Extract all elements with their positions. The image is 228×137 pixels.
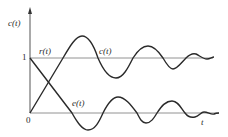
e-curve bbox=[30, 58, 219, 130]
response-chart bbox=[0, 0, 228, 137]
y-axis-label: c(t) bbox=[8, 19, 21, 28]
x-axis-label: t bbox=[201, 118, 204, 127]
r-label: r(t) bbox=[39, 47, 51, 56]
y-tick-one: 1 bbox=[22, 53, 27, 62]
y-tick-zero: 0 bbox=[26, 116, 31, 125]
c-curve bbox=[30, 36, 214, 113]
y-axis-arrow-icon bbox=[28, 7, 32, 14]
e-label: e(t) bbox=[72, 99, 85, 108]
c-label: c(t) bbox=[99, 47, 112, 56]
